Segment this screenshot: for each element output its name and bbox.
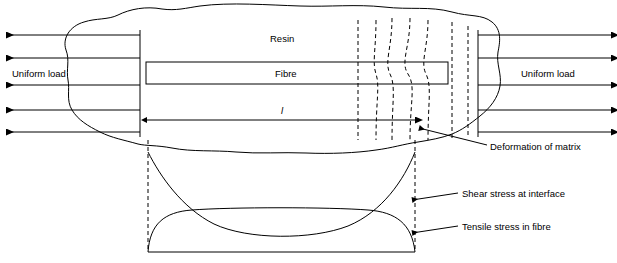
label-tensile-stress-in-fibre: Tensile stress in fibre: [462, 221, 551, 232]
label-shear-stress-at-interface: Shear stress at interface: [462, 188, 565, 199]
right-load-arrows: [478, 30, 611, 137]
label-uniform-load-left: Uniform load: [12, 68, 66, 79]
label-length-symbol: l: [281, 105, 283, 116]
left-load-arrows: [6, 30, 140, 137]
tensile-stress-curve: [148, 208, 415, 252]
label-uniform-load-right: Uniform load: [521, 68, 575, 79]
shear-stress-curve: [148, 152, 415, 236]
figure-canvas: Resin Fibre Uniform load Uniform load l …: [0, 0, 617, 263]
label-resin: Resin: [270, 33, 294, 44]
label-fibre: Fibre: [275, 68, 297, 79]
annotation-leaders: [412, 128, 487, 233]
label-deformation-of-matrix: Deformation of matrix: [490, 141, 581, 152]
stress-plot-guide-lines: [148, 140, 415, 252]
matrix-deformation-lines: [358, 18, 468, 140]
fibre-rectangle: [146, 62, 448, 84]
